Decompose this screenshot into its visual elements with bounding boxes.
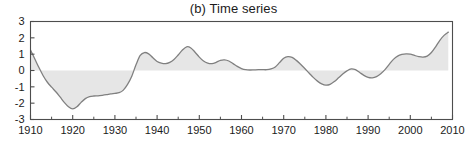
x-axis-tick-label: 1930 (103, 124, 127, 136)
x-axis-tick-label: 2000 (398, 124, 422, 136)
x-axis-tick-label: 2010 (440, 124, 464, 136)
x-axis-tick-label: 1910 (18, 124, 42, 136)
x-axis-tick-label: 1940 (145, 124, 169, 136)
y-axis-tick-label: 2 (18, 32, 24, 44)
x-axis-tick-label: 1990 (356, 124, 380, 136)
time-series-figure: (b) Time series -3-2-1012319101920193019… (0, 0, 467, 143)
x-axis-tick-label: 1970 (271, 124, 295, 136)
x-axis-tick-label: 1960 (229, 124, 253, 136)
time-series-chart: -3-2-10123191019201930194019501960197019… (0, 0, 467, 143)
x-axis-tick-label: 1980 (314, 124, 338, 136)
y-axis-tick-label: 0 (18, 64, 24, 76)
y-axis-tick-label: 3 (18, 15, 24, 27)
x-axis-tick-label: 1920 (60, 124, 84, 136)
y-axis-tick-label: 1 (18, 48, 24, 60)
series-area-fill (31, 32, 449, 109)
x-axis-tick-label: 1950 (187, 124, 211, 136)
y-axis-tick-label: -2 (15, 97, 25, 109)
y-axis-tick-label: -1 (15, 81, 25, 93)
